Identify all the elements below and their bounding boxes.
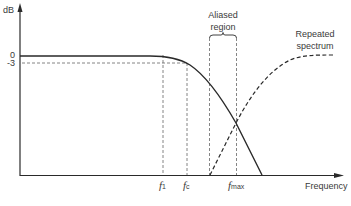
- fc-label: fc: [183, 180, 190, 191]
- fmax-label: fmax: [228, 180, 244, 191]
- x-axis-arrow-icon: [334, 173, 344, 178]
- repeated-spectrum-label-line1: Repeated: [290, 30, 340, 39]
- repeated-spectrum-curve: [210, 55, 333, 175]
- aliased-region-label-line1: Aliased: [205, 11, 241, 20]
- y-axis-label: dB: [3, 6, 14, 15]
- aliased-region-label-line2: region: [205, 23, 241, 32]
- y-axis-arrow-icon: [18, 3, 23, 12]
- f1-label: f1: [159, 180, 166, 191]
- y-tick-minus-3: -3: [7, 59, 15, 68]
- repeated-spectrum-label-line2: spectrum: [290, 42, 340, 51]
- x-axis-label: Frequency: [305, 182, 348, 191]
- filter-response-curve: [20, 56, 262, 175]
- aliased-region-brace: [210, 33, 237, 39]
